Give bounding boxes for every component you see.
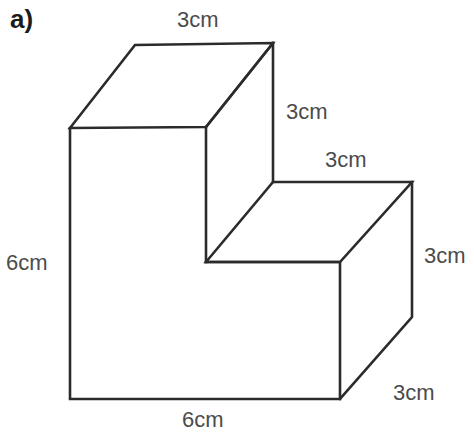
dimension-label-upper-right: 3cm: [286, 101, 328, 123]
dimension-label-step-top: 3cm: [325, 149, 367, 171]
dimension-label-top: 3cm: [177, 9, 219, 31]
figure-canvas: a) 3cm 3cm 3cm 3cm 3cm 6cm 6cm: [0, 0, 474, 435]
dimension-label-left: 6cm: [6, 252, 48, 274]
step-top-face: [206, 182, 412, 262]
upper-block-right-face-top-diagonal: [206, 43, 273, 127]
dimension-label-right: 3cm: [424, 245, 466, 267]
dimension-label-bottom: 6cm: [182, 409, 224, 431]
lower-block-right-face: [340, 182, 412, 399]
l-shaped-solid-drawing: [0, 0, 474, 435]
dimension-label-bottom-right: 3cm: [393, 382, 435, 404]
top-face: [70, 43, 273, 128]
